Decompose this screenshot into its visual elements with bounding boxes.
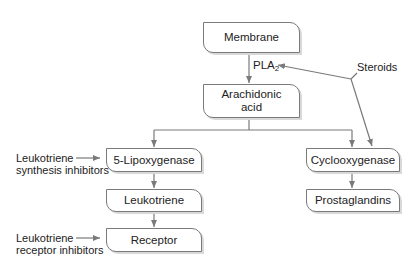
- node-membrane: Membrane: [203, 22, 300, 53]
- node-cyclooxygenase: Cyclooxygenase: [306, 148, 400, 172]
- node-5-lipoxygenase: 5-Lipoxygenase: [106, 148, 202, 172]
- node-arachidonic-acid: Arachidonic acid: [203, 84, 300, 118]
- node-receptor-label: Receptor: [131, 234, 178, 247]
- node-prostaglandins-label: Prostaglandins: [315, 194, 391, 207]
- node-cyclooxygenase-label: Cyclooxygenase: [311, 154, 395, 167]
- node-prostaglandins: Prostaglandins: [306, 189, 400, 212]
- node-membrane-label: Membrane: [224, 31, 279, 44]
- synthesis-inhibitors-label-line1: Leukotriene: [16, 152, 74, 164]
- node-receptor: Receptor: [106, 228, 202, 252]
- enzyme-pla2-label: PLA2: [253, 59, 279, 73]
- arrow-steroids-to-pla2: [278, 65, 351, 79]
- synthesis-inhibitors-label-line2: synthesis inhibitors: [16, 164, 109, 176]
- receptor-inhibitors-label-line1: Leukotriene: [16, 232, 74, 244]
- node-lipoxygenase-label: 5-Lipoxygenase: [113, 154, 194, 167]
- node-arachidonic-line1: Arachidonic: [221, 88, 281, 101]
- pla-subscript: 2: [275, 64, 279, 73]
- pla-text: PLA: [253, 59, 275, 71]
- steroids-label: Steroids: [357, 61, 397, 73]
- node-arachidonic-line2: acid: [241, 101, 262, 114]
- receptor-inhibitors-label-line2: receptor inhibitors: [16, 244, 103, 256]
- node-leukotriene: Leukotriene: [106, 189, 202, 212]
- arrow-steroids-to-cyclooxygenase: [351, 79, 372, 146]
- node-leukotriene-label: Leukotriene: [124, 194, 184, 207]
